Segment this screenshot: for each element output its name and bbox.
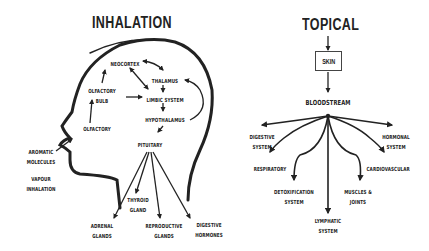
aromatherapy-diagram: INHALATION TOPICAL NEOCORTEX THALAMUS OL… bbox=[0, 0, 429, 251]
adrenal-glands-label-1: ADRENAL bbox=[87, 221, 117, 231]
respiratory-label: RESPIRATORY bbox=[254, 164, 287, 174]
lymphatic-system-label-2: SYSTEM bbox=[312, 226, 345, 236]
digestive-hormones-label-1: DIGESTIVE bbox=[192, 220, 226, 230]
reproductive-glands-label-1: REPRODUCTIVE bbox=[144, 221, 183, 231]
olfactory-bulb-label-2: BULB bbox=[86, 96, 119, 106]
thyroid-gland-label-1: THYROID bbox=[123, 195, 153, 205]
vapour-inhalation-label-1: VAPOUR bbox=[24, 174, 58, 184]
digestive-system-label-1: DIGESTIVE bbox=[247, 132, 277, 142]
hormonal-system-label-2: SYSTEM bbox=[381, 142, 411, 152]
skin-box: SKIN bbox=[315, 51, 342, 71]
vapour-inhalation-label-2: INHALATION bbox=[24, 184, 58, 194]
cardiovascular-label: CARDIOVASCULAR bbox=[367, 164, 408, 174]
adrenal-glands-label-2: GLANDS bbox=[87, 231, 117, 241]
digestive-hormones-label-2: HORMONES bbox=[192, 230, 226, 240]
hypothalamus-label: HYPOTHALAMUS bbox=[145, 115, 186, 125]
inhalation-title: INHALATION bbox=[92, 14, 172, 32]
muscles-joints-label-1: MUSCLES & bbox=[343, 187, 373, 197]
thalamus-label: THALAMUS bbox=[149, 76, 182, 86]
topical-title: TOPICAL bbox=[302, 16, 359, 34]
olfactory-bulb-label-1: OLFACTORY bbox=[86, 86, 119, 96]
bloodstream-label: BLOODSTREAM bbox=[303, 98, 352, 108]
muscles-joints-label-2: JOINTS bbox=[343, 197, 373, 207]
limbic-system-label: LIMBIC SYSTEM bbox=[145, 95, 186, 105]
skin-label: SKIN bbox=[322, 58, 335, 65]
neocortex-label: NEOCORTEX bbox=[105, 59, 146, 69]
aromatic-molecules-label-1: AROMATIC bbox=[24, 147, 58, 157]
hormonal-system-label-1: HORMONAL bbox=[381, 132, 411, 142]
olfactory-label: OLFACTORY bbox=[81, 124, 114, 134]
diagram-lines bbox=[0, 0, 429, 251]
reproductive-glands-label-2: GLANDS bbox=[144, 231, 183, 241]
pituitary-label: PITUITARY bbox=[134, 140, 167, 150]
detoxification-system-label-1: DETOXIFICATION bbox=[274, 187, 315, 197]
detoxification-system-label-2: SYSTEM bbox=[274, 197, 315, 207]
aromatic-molecules-label-2: MOLECULES bbox=[24, 157, 58, 167]
thyroid-gland-label-2: GLAND bbox=[123, 205, 153, 215]
lymphatic-system-label-1: LYMPHATIC bbox=[312, 216, 345, 226]
digestive-system-label-2: SYSTEM bbox=[247, 142, 277, 152]
